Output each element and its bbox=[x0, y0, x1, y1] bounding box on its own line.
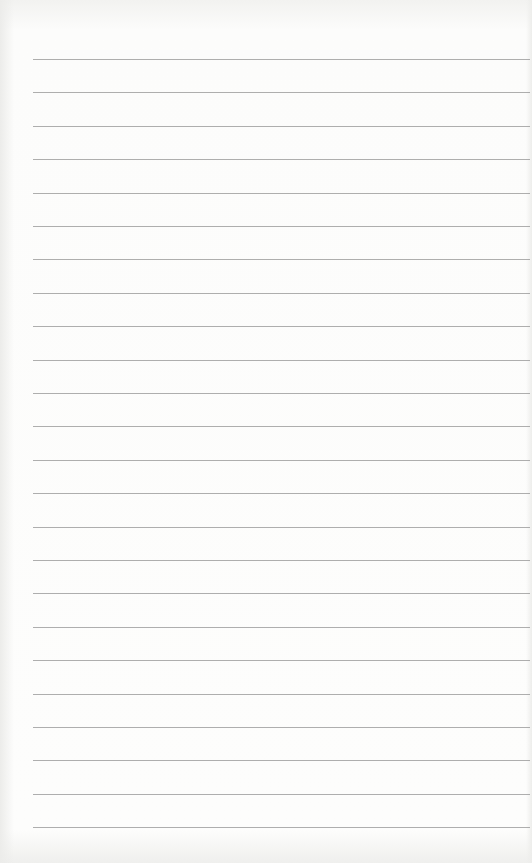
ruled-line bbox=[33, 527, 530, 528]
ruled-line bbox=[33, 493, 530, 494]
ruled-line bbox=[33, 560, 530, 561]
ruled-line bbox=[33, 159, 530, 160]
paper-left-edge-shadow bbox=[0, 0, 14, 863]
ruled-line bbox=[33, 59, 530, 60]
paper-right-edge-shadow bbox=[526, 0, 532, 863]
ruled-line bbox=[33, 92, 530, 93]
ruled-line bbox=[33, 827, 530, 828]
ruled-line bbox=[33, 126, 530, 127]
ruled-line bbox=[33, 226, 530, 227]
ruled-line bbox=[33, 660, 530, 661]
ruled-line bbox=[33, 460, 530, 461]
ruled-line bbox=[33, 426, 530, 427]
ruled-line bbox=[33, 393, 530, 394]
ruled-line bbox=[33, 259, 530, 260]
lined-paper bbox=[0, 0, 532, 863]
ruled-line bbox=[33, 593, 530, 594]
ruled-line bbox=[33, 293, 530, 294]
ruled-line bbox=[33, 760, 530, 761]
ruled-line bbox=[33, 326, 530, 327]
ruled-line bbox=[33, 794, 530, 795]
ruled-line bbox=[33, 360, 530, 361]
ruled-line bbox=[33, 627, 530, 628]
ruled-line bbox=[33, 727, 530, 728]
ruled-line bbox=[33, 193, 530, 194]
ruled-line bbox=[33, 694, 530, 695]
